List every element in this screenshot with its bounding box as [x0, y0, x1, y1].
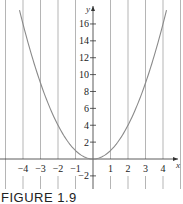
y-tick-label: 4 [84, 120, 89, 131]
x-tick-label: −4 [18, 163, 29, 174]
tick-labels: −2246810121416−4−3−2−11234xy [18, 4, 180, 181]
y-axis-arrow-icon [91, 6, 95, 11]
x-axis-label: x [175, 160, 180, 170]
figure-caption: FIGURE 1.9 [1, 190, 77, 204]
axes [0, 6, 178, 189]
y-tick-label: 2 [84, 137, 89, 148]
y-tick-label: 12 [79, 52, 89, 63]
y-tick-label: 16 [79, 18, 89, 29]
y-tick-label: 8 [84, 86, 89, 97]
y-tick-label: 10 [79, 69, 89, 80]
x-tick-label: 2 [126, 163, 131, 174]
parabola-chart: −2246810121416−4−3−2−11234xy [0, 0, 183, 204]
x-tick-label: −1 [70, 163, 81, 174]
x-tick-label: −2 [53, 163, 64, 174]
x-tick-label: 3 [143, 163, 148, 174]
x-tick-label: 4 [161, 163, 166, 174]
x-tick-label: −3 [35, 163, 46, 174]
x-tick-label: 1 [108, 163, 113, 174]
y-tick-label: 14 [79, 35, 89, 46]
y-axis-label: y [85, 4, 90, 14]
y-tick-label: 6 [84, 103, 89, 114]
